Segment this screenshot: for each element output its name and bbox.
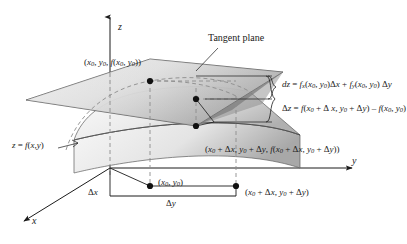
increment-label-dx: Δx xyxy=(88,188,98,197)
axis-label-x: x xyxy=(32,216,36,226)
point-label-base-point: (x0, y0) xyxy=(158,178,183,188)
point-label-surface-point: (x0 + Δx, y0 + Δy, f(x0 + Δx, y0 + Δy)) xyxy=(205,145,340,155)
point-label-tangent-point: (x0, y0, f(x0, y0)) xyxy=(84,58,141,68)
tangent-plane-label: Tangent plane xyxy=(208,33,264,43)
equation-delta-z: Δz = f(x0 + Δ x, y0 + Δy) – f(x0, y0) xyxy=(282,104,406,114)
surface-equation-label: z = f(x,y) xyxy=(12,141,44,150)
axis-label-z: z xyxy=(118,22,122,32)
point-label-base-point-shifted: (x0 + Δx, y0 + Δy) xyxy=(245,188,309,198)
equation-dz: dz = fx(x0, y0)Δx + fy(x0, y0) Δy xyxy=(282,80,392,90)
axis-label-y: y xyxy=(352,156,356,166)
figure-canvas: z y x Tangent plane z = f(x,y) (x0, y0, … xyxy=(0,0,407,244)
tangent-plane-diagram xyxy=(0,0,407,244)
increment-label-dy: Δy xyxy=(166,199,176,208)
